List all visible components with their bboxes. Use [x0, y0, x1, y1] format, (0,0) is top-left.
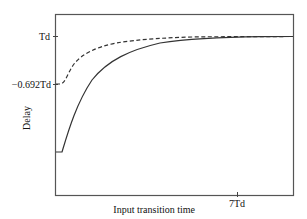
chart: Td −0.692Td 7Td Input transition time De…	[0, 0, 307, 219]
ytick-label-0692: −0.692Td	[12, 79, 51, 90]
y-axis-label: Delay	[21, 106, 32, 130]
solid-curve	[56, 37, 293, 153]
x-axis-label: Input transition time	[113, 204, 195, 215]
ytick-label-td: Td	[39, 31, 50, 42]
xtick-label-7td: 7Td	[229, 198, 245, 209]
dashed-curve	[56, 37, 293, 85]
